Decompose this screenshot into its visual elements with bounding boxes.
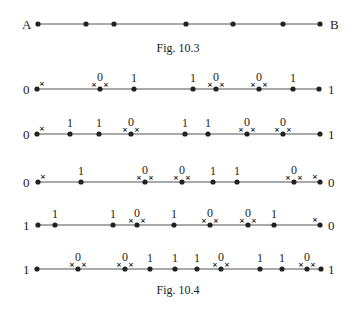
fig-10-3: A B Fig. 10.3 [22, 17, 339, 56]
cross-icon: × [312, 173, 318, 181]
point-dot [304, 266, 309, 271]
point-dot [134, 222, 139, 227]
cross-icon: × [274, 126, 280, 134]
point-dot [190, 86, 195, 91]
point-label: 1 [78, 164, 84, 178]
caption-fig-10-4: Fig. 10.4 [156, 283, 199, 297]
point-dot [318, 266, 323, 271]
point-dot [83, 21, 88, 26]
cross-icon: × [286, 126, 292, 134]
label-b: B [330, 17, 339, 32]
cross-icon: × [173, 174, 179, 182]
point-dot [205, 131, 210, 136]
fig-10-4: Fig. 10.4 01×0××110××0××101×110××110××0×… [23, 70, 335, 297]
point-dot [279, 266, 284, 271]
row-left-value: 0 [23, 82, 30, 97]
point-label: 1 [147, 251, 153, 265]
point-dot [111, 21, 116, 26]
point-dot [35, 21, 40, 26]
cross-icon: × [250, 126, 256, 134]
point-dot [35, 222, 40, 227]
point-label: 1 [52, 207, 58, 221]
point-dot [182, 131, 187, 136]
point-label: 1 [171, 207, 177, 221]
point-dot [122, 266, 127, 271]
cross-icon: × [207, 81, 213, 89]
cross-icon: × [285, 174, 291, 182]
cross-icon: × [262, 81, 268, 89]
point-dot [316, 86, 321, 91]
cross-icon: × [140, 217, 146, 225]
row-right-value: 0 [328, 218, 335, 233]
point-dot [317, 179, 322, 184]
point-label: 1 [67, 116, 73, 130]
point-dot [290, 86, 295, 91]
point-dot [34, 266, 39, 271]
row-2: 01×110××110××0×× [23, 115, 335, 142]
figure-canvas: A B Fig. 10.3 Fig. 10.4 01×0××110××0××10… [0, 0, 356, 314]
row-right-value: 1 [328, 82, 335, 97]
cross-icon: × [250, 81, 256, 89]
point-dot [78, 179, 83, 184]
row-left-value: 0 [23, 127, 30, 142]
point-dot [230, 21, 235, 26]
cross-icon: × [310, 261, 316, 269]
cross-icon: × [136, 174, 142, 182]
point-dot [213, 86, 218, 91]
point-dot [110, 222, 115, 227]
label-a: A [22, 17, 32, 32]
point-dot [271, 222, 276, 227]
point-label: 1 [182, 116, 188, 130]
point-dot [67, 131, 72, 136]
point-label: 1 [96, 116, 102, 130]
caption-fig-10-3: Fig. 10.3 [156, 41, 199, 55]
cross-icon: × [212, 261, 218, 269]
row-right-value: 1 [328, 262, 335, 277]
point-dot [142, 179, 147, 184]
point-dot [257, 266, 262, 271]
cross-icon: × [224, 261, 230, 269]
cross-icon: × [91, 81, 97, 89]
point-dot [207, 222, 212, 227]
point-dot [96, 131, 101, 136]
row-left-value: 1 [23, 218, 30, 233]
point-dot [128, 131, 133, 136]
point-label: 1 [131, 71, 137, 85]
cross-icon: × [40, 173, 46, 181]
row-5: 110××0××1110××110×× [23, 250, 335, 277]
point-label: 1 [257, 251, 263, 265]
cross-icon: × [122, 126, 128, 134]
row-left-value: 1 [23, 262, 30, 277]
cross-icon: × [81, 261, 87, 269]
point-dot [218, 266, 223, 271]
cross-icon: × [297, 174, 303, 182]
row-4: 10110××10××0××1× [23, 206, 335, 233]
point-dot [317, 222, 322, 227]
point-dot [172, 266, 177, 271]
point-dot [194, 266, 199, 271]
point-dot [131, 86, 136, 91]
cross-icon: × [238, 126, 244, 134]
point-label: 1 [110, 207, 116, 221]
point-dot [280, 131, 285, 136]
point-label: 1 [290, 71, 296, 85]
point-dot [179, 179, 184, 184]
cross-icon: × [312, 216, 318, 224]
cross-icon: × [148, 174, 154, 182]
point-label: 1 [205, 116, 211, 130]
row-right-value: 0 [328, 175, 335, 190]
cross-icon: × [185, 174, 191, 182]
cross-icon: × [39, 80, 45, 88]
point-label: 1 [271, 207, 277, 221]
point-dot [317, 131, 322, 136]
point-dot [147, 266, 152, 271]
point-dot [52, 222, 57, 227]
point-dot [75, 266, 80, 271]
cross-icon: × [39, 125, 45, 133]
point-label: 1 [172, 251, 178, 265]
point-dot [245, 222, 250, 227]
point-label: 1 [190, 71, 196, 85]
cross-icon: × [239, 217, 245, 225]
point-label: 1 [194, 251, 200, 265]
cross-icon: × [134, 126, 140, 134]
